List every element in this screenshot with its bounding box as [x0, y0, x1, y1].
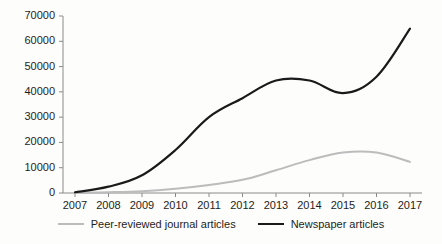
x-axis-tick-label: 2013 — [257, 199, 295, 211]
series-line-peer-reviewed-journal-articles — [75, 151, 410, 192]
axis-group — [59, 16, 422, 197]
y-axis-tick-label: 0 — [0, 186, 55, 198]
x-axis-tick-label: 2015 — [324, 199, 362, 211]
legend-item[interactable]: Newspaper articles — [258, 218, 385, 230]
y-axis-tick-label: 20000 — [0, 135, 55, 147]
y-axis-tick-label: 10000 — [0, 161, 55, 173]
x-axis-tick-label: 2008 — [90, 199, 128, 211]
line-chart: 010000200003000040000500006000070000 200… — [0, 0, 442, 244]
y-axis-tick-label: 30000 — [0, 110, 55, 122]
chart-legend: Peer-reviewed journal articlesNewspaper … — [0, 218, 442, 230]
y-axis-tick-label: 40000 — [0, 85, 55, 97]
legend-item-label: Peer-reviewed journal articles — [91, 218, 236, 230]
legend-item[interactable]: Peer-reviewed journal articles — [58, 218, 236, 230]
series-group — [75, 29, 410, 193]
legend-item-label: Newspaper articles — [291, 218, 385, 230]
series-line-newspaper-articles — [75, 29, 410, 193]
y-axis-tick-label: 50000 — [0, 60, 55, 72]
x-axis-tick-label: 2011 — [190, 199, 228, 211]
legend-line-swatch-icon — [58, 223, 84, 225]
y-axis-tick-label: 60000 — [0, 34, 55, 46]
x-axis-tick-label: 2016 — [358, 199, 396, 211]
x-axis-tick-label: 2010 — [157, 199, 195, 211]
x-axis-tick-label: 2009 — [123, 199, 161, 211]
x-axis-tick-label: 2012 — [224, 199, 262, 211]
y-axis-tick-label: 70000 — [0, 9, 55, 21]
x-axis-tick-label: 2014 — [291, 199, 329, 211]
x-axis-tick-label: 2017 — [391, 199, 429, 211]
x-axis-tick-label: 2007 — [56, 199, 94, 211]
legend-line-swatch-icon — [258, 223, 284, 225]
